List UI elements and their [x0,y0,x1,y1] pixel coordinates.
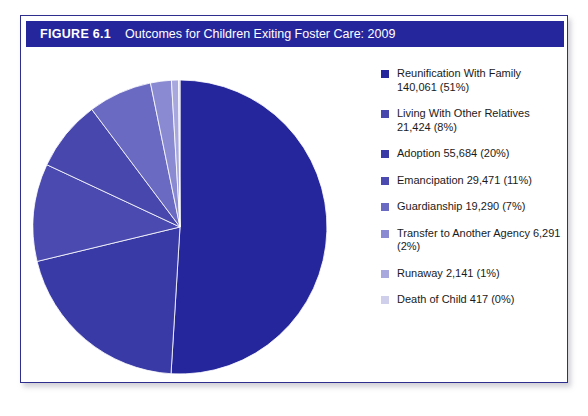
legend-item-label: Guardianship 19,290 (7%) [397,200,525,214]
figure-title: Outcomes for Children Exiting Foster Car… [125,27,395,41]
legend-swatch [381,203,389,211]
pie-chart-svg [33,47,353,377]
legend-swatch [381,110,389,118]
legend-swatch [381,70,389,78]
pie-chart [33,47,353,377]
legend-item: Runaway 2,141 (1%) [381,267,561,281]
legend-item-label: Emancipation 29,471 (11%) [397,174,532,188]
legend-swatch [381,150,389,158]
legend-swatch [381,296,389,304]
legend-item-label: Adoption 55,684 (20%) [397,147,510,161]
figure-body: Reunification With Family 140,061 (51%)L… [21,47,567,382]
figure-card: FIGURE 6.1 Outcomes for Children Exiting… [20,15,568,383]
legend-item: Emancipation 29,471 (11%) [381,174,561,188]
legend-item-label: Runaway 2,141 (1%) [397,267,500,281]
legend-swatch [381,177,389,185]
legend-item-label: Death of Child 417 (0%) [397,293,514,307]
legend-item: Living With Other Relatives 21,424 (8%) [381,107,561,134]
legend-item-label: Transfer to Another Agency 6,291 (2%) [397,227,561,254]
legend-item-label: Living With Other Relatives 21,424 (8%) [397,107,561,134]
legend-item: Adoption 55,684 (20%) [381,147,561,161]
legend-item: Reunification With Family 140,061 (51%) [381,67,561,94]
figure-number: FIGURE 6.1 [40,27,111,41]
pie-slice [171,80,327,374]
legend-swatch [381,230,389,238]
legend-swatch [381,270,389,278]
figure-header-bar: FIGURE 6.1 Outcomes for Children Exiting… [26,21,564,47]
legend-item: Death of Child 417 (0%) [381,293,561,307]
legend-item: Guardianship 19,290 (7%) [381,200,561,214]
legend-item-label: Reunification With Family 140,061 (51%) [397,67,561,94]
chart-legend: Reunification With Family 140,061 (51%)L… [381,67,561,320]
legend-item: Transfer to Another Agency 6,291 (2%) [381,227,561,254]
